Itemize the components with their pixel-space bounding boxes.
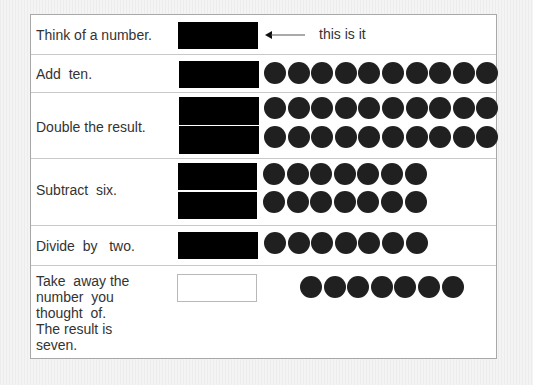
counter-dot (288, 97, 310, 119)
step-take-away: Take away the number you thought of. The… (31, 266, 496, 360)
counter-dot (335, 232, 357, 254)
counter-dot (394, 276, 416, 298)
dot-row (263, 191, 428, 213)
counter-dot (264, 97, 286, 119)
counter-dot (264, 126, 286, 148)
counter-dot (406, 126, 428, 148)
dot-row (264, 62, 500, 84)
counter-dot (381, 163, 403, 185)
counter-dot (310, 163, 332, 185)
counter-dot (429, 97, 451, 119)
counter-dot (334, 191, 356, 213)
this-is-it-note: this is it (319, 26, 366, 42)
counter-dot (263, 191, 285, 213)
unknown-number-box (178, 232, 258, 259)
counter-dot (453, 126, 475, 148)
counter-dot (311, 97, 333, 119)
counter-dot (358, 126, 380, 148)
step-subtract-six: Subtract six. (31, 159, 496, 226)
counter-dot (476, 97, 498, 119)
counter-dot (405, 163, 427, 185)
dot-row (264, 232, 429, 254)
counter-dot (453, 97, 475, 119)
step-label: Double the result. (36, 119, 146, 135)
counter-dot (429, 126, 451, 148)
number-trick-card: Think of a number. this is it Add ten. D… (30, 14, 497, 359)
dot-row (264, 126, 500, 148)
counter-dot (310, 191, 332, 213)
step-label: Think of a number. (36, 27, 152, 43)
step-double: Double the result. (31, 93, 496, 159)
counter-dot (264, 232, 286, 254)
counter-dot (264, 62, 286, 84)
counter-dot (429, 62, 451, 84)
counter-dot (406, 97, 428, 119)
unknown-number-box (179, 97, 259, 125)
counter-dot (311, 232, 333, 254)
step-think-of-number: Think of a number. this is it (31, 15, 496, 55)
counter-dot (287, 191, 309, 213)
counter-dot (347, 276, 369, 298)
counter-dot (334, 163, 356, 185)
dot-row (300, 276, 465, 298)
empty-number-box (177, 274, 257, 302)
unknown-number-box (178, 22, 258, 49)
counter-dot (288, 62, 310, 84)
step-label: Subtract six. (36, 182, 117, 198)
counter-dot (381, 191, 403, 213)
counter-dot (406, 232, 428, 254)
counter-dot (300, 276, 322, 298)
counter-dot (358, 97, 380, 119)
counter-dot (418, 276, 440, 298)
arrow-left-icon (265, 30, 305, 40)
counter-dot (358, 62, 380, 84)
counter-dot (442, 276, 464, 298)
dot-row (263, 163, 428, 185)
counter-dot (288, 126, 310, 148)
counter-dot (335, 62, 357, 84)
counter-dot (476, 126, 498, 148)
unknown-number-box (178, 192, 257, 219)
counter-dot (371, 276, 393, 298)
counter-dot (287, 163, 309, 185)
step-label: Take away the number you thought of. The… (36, 273, 129, 353)
step-divide-by-two: Divide by two. (31, 226, 496, 266)
counter-dot (453, 62, 475, 84)
step-add-ten: Add ten. (31, 55, 496, 93)
counter-dot (358, 232, 380, 254)
step-label: Divide by two. (36, 238, 135, 254)
counter-dot (406, 62, 428, 84)
counter-dot (357, 163, 379, 185)
counter-dot (335, 97, 357, 119)
counter-dot (311, 126, 333, 148)
unknown-number-box (179, 61, 259, 88)
counter-dot (263, 163, 285, 185)
counter-dot (382, 126, 404, 148)
counter-dot (311, 62, 333, 84)
unknown-number-box (179, 126, 259, 154)
counter-dot (382, 97, 404, 119)
counter-dot (382, 62, 404, 84)
unknown-number-box (178, 163, 257, 190)
counter-dot (476, 62, 498, 84)
counter-dot (335, 126, 357, 148)
counter-dot (324, 276, 346, 298)
counter-dot (405, 191, 427, 213)
counter-dot (382, 232, 404, 254)
counter-dot (288, 232, 310, 254)
step-label: Add ten. (36, 66, 92, 82)
dot-row (264, 97, 500, 119)
counter-dot (357, 191, 379, 213)
